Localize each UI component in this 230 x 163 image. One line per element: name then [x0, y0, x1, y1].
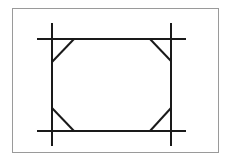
- corner-diagonal: [52, 108, 74, 131]
- corner-diagonal: [52, 39, 74, 62]
- corner-diagonal: [150, 39, 171, 61]
- diagram-canvas: [0, 0, 230, 163]
- corner-diagonal: [150, 108, 171, 131]
